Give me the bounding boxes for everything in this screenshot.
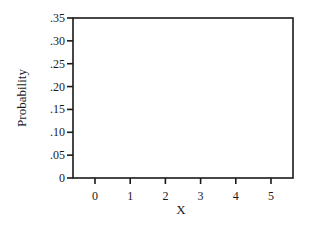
plot-border (73, 18, 293, 178)
probability-chart: 0.05.10.15.20.25.30.35 012345 Probabilit… (0, 0, 312, 225)
x-tick-label: 2 (162, 189, 168, 203)
plot-frame (73, 18, 293, 178)
x-tick-label: 1 (127, 189, 133, 203)
y-tick-label: .05 (50, 148, 65, 162)
y-tick-label: .30 (50, 34, 65, 48)
x-tick-label: 4 (233, 189, 239, 203)
x-axis-ticks: 012345 (92, 178, 274, 203)
x-tick-label: 3 (198, 189, 204, 203)
x-tick-label: 0 (92, 189, 98, 203)
y-axis-title: Probability (14, 69, 29, 127)
y-axis-ticks: 0.05.10.15.20.25.30.35 (50, 11, 73, 185)
y-tick-label: .35 (50, 11, 65, 25)
y-tick-label: .10 (50, 125, 65, 139)
y-tick-label: .25 (50, 57, 65, 71)
y-tick-label: 0 (59, 171, 65, 185)
y-tick-label: .15 (50, 102, 65, 116)
x-axis-title: X (176, 202, 186, 217)
x-tick-label: 5 (268, 189, 274, 203)
y-tick-label: .20 (50, 80, 65, 94)
